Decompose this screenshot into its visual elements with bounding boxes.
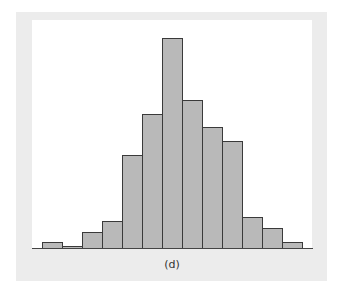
histogram-bar xyxy=(162,38,183,249)
histogram-bar xyxy=(122,155,143,249)
x-axis-baseline xyxy=(32,248,313,249)
histogram-bar xyxy=(242,217,263,249)
histogram-bar xyxy=(82,232,103,249)
histogram-bar xyxy=(262,228,283,249)
histogram-bar xyxy=(182,100,203,249)
plot-area xyxy=(32,20,312,249)
histogram-bar xyxy=(222,141,243,249)
figure-caption: (d) xyxy=(150,258,194,271)
histogram-bar xyxy=(142,114,163,249)
histogram-bar xyxy=(202,127,223,249)
histogram-bar xyxy=(102,221,123,249)
